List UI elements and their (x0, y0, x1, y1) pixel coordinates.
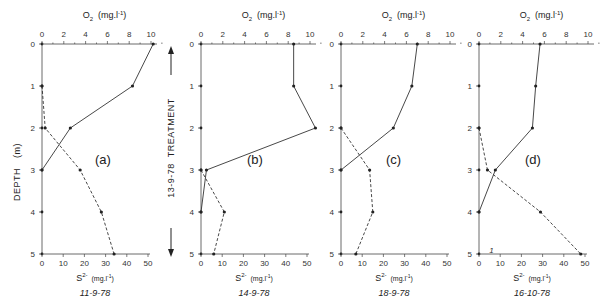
depth-tick-label: 1 (330, 82, 335, 91)
o2-tick-label: 2 (221, 30, 226, 39)
sample-date: 18-9-78 (378, 288, 409, 298)
o2-axis-label: O2(mg.l-1) (242, 10, 286, 22)
sulphide-tick-label: 30 (260, 259, 269, 268)
o2-point (339, 168, 342, 171)
o2-tick-label: 10 (306, 30, 315, 39)
sulphide-profile-line (42, 86, 114, 254)
sulphide-point (223, 210, 226, 213)
depth-tick-label: 2 (31, 124, 36, 133)
sulphide-tick-label: 50 (581, 259, 590, 268)
o2-tick-label: 0 (40, 30, 45, 39)
o2-tick-label: 0 (477, 30, 482, 39)
sulphide-profile-line (479, 128, 581, 254)
panel-c: 0123450246810O2(mg.l-1)01020304050S2-(mg… (330, 10, 461, 298)
sulphide-tick-label: 10 (496, 259, 505, 268)
depth-tick-label: 3 (330, 166, 335, 175)
o2-point (131, 84, 134, 87)
sulphide-point (79, 168, 82, 171)
o2-point (69, 126, 72, 129)
o2-point (410, 84, 413, 87)
o2-tick-label: 8 (127, 30, 132, 39)
sulphide-tick-label: 0 (477, 259, 482, 268)
depth-tick-label: 2 (468, 124, 473, 133)
o2-tick-label: 6 (542, 30, 547, 39)
sulphide-tick-label: 20 (239, 259, 248, 268)
o2-point (392, 126, 395, 129)
o2-tick-label: 0 (339, 30, 344, 39)
o2-tick-label: 4 (520, 30, 525, 39)
sulphide-point (354, 252, 357, 255)
depth-tick-label: 0 (190, 40, 195, 49)
sulphide-point (371, 210, 374, 213)
o2-tick-label: 4 (83, 30, 88, 39)
depth-tick-label: 5 (330, 250, 335, 259)
depth-tick-label: 0 (468, 40, 473, 49)
sulphide-profile-line (341, 128, 373, 254)
sulphide-tick-label: 40 (559, 259, 568, 268)
o2-point (199, 210, 202, 213)
sulphide-point (339, 126, 342, 129)
depth-tick-label: 1 (31, 82, 36, 91)
o2-tick-label: 2 (62, 30, 67, 39)
depth-tick-label: 5 (31, 250, 36, 259)
sulphide-tick-label: 20 (517, 259, 526, 268)
depth-tick-label: 4 (190, 208, 195, 217)
sulphide-point (368, 168, 371, 171)
o2-point (40, 168, 43, 171)
depth-tick-label: 3 (31, 166, 36, 175)
sulphide-axis-label: S2-(mg.l-1) (235, 272, 273, 283)
depth-tick-label: 5 (190, 250, 195, 259)
depth-profile-figure: 0123450246810O2(mg.l-1)01020304050S2-(mg… (0, 0, 612, 308)
depth-tick-label: 4 (468, 208, 473, 217)
o2-point (205, 168, 208, 171)
sulphide-axis-label: S2-(mg.l-1) (76, 272, 114, 283)
sulphide-axis-label: S2-(mg.l-1) (513, 272, 551, 283)
o2-axis-label: O2(mg.l-1) (520, 10, 564, 22)
depth-tick-label: 0 (330, 40, 335, 49)
o2-point (292, 84, 295, 87)
o2-tick-label: 8 (286, 30, 291, 39)
sulphide-point (40, 84, 43, 87)
sulphide-point (212, 252, 215, 255)
o2-point (292, 42, 295, 45)
sulphide-tick-label: 0 (339, 259, 344, 268)
sample-date: 11-9-78 (80, 288, 110, 298)
sulphide-tick-label: 40 (122, 259, 131, 268)
sulphide-point (477, 126, 480, 129)
sulphide-tick-label: 20 (80, 259, 89, 268)
depth-tick-label: 3 (190, 166, 195, 175)
sulphide-point (199, 168, 202, 171)
depth-axis-title: DEPTH(m) (12, 143, 22, 201)
panel-a: 0123450246810O2(mg.l-1)01020304050S2-(mg… (31, 10, 162, 298)
sulphide-point (539, 210, 542, 213)
o2-tick-label: 8 (426, 30, 431, 39)
sulphide-tick-label: 0 (199, 259, 204, 268)
depth-tick-label: 5 (468, 250, 473, 259)
sulphide-tick-label: 30 (400, 259, 409, 268)
sulphide-tick-label: 30 (101, 259, 110, 268)
sulphide-tick-label: 30 (538, 259, 547, 268)
sulphide-point (112, 252, 115, 255)
sulphide-tick-label: 40 (421, 259, 430, 268)
o2-tick-label: 2 (499, 30, 504, 39)
panel-d: 0123450246810O2(mg.l-1)01020304050S2-(mg… (468, 10, 599, 298)
sulphide-tick-label: 10 (59, 259, 68, 268)
o2-tick-label: 10 (147, 30, 156, 39)
sulphide-tick-label: 10 (218, 259, 227, 268)
o2-axis-label: O2(mg.l-1) (382, 10, 426, 22)
o2-tick-label: 8 (564, 30, 569, 39)
panel-tag: (c) (386, 152, 401, 167)
o2-tick-label: 10 (584, 30, 593, 39)
o2-tick-label: 6 (105, 30, 110, 39)
sulphide-point (579, 252, 582, 255)
o2-profile-line (341, 44, 417, 170)
sulphide-point (100, 210, 103, 213)
sulphide-tick-label: 10 (358, 259, 367, 268)
sulphide-tick-label: 40 (281, 259, 290, 268)
o2-tick-label: 6 (404, 30, 409, 39)
sulphide-point (486, 168, 489, 171)
treatment-label: 13-9-78TREATMENT (166, 98, 176, 197)
sample-date: 16-10-78 (514, 288, 550, 298)
o2-tick-label: 2 (361, 30, 366, 39)
depth-tick-label: 0 (31, 40, 36, 49)
